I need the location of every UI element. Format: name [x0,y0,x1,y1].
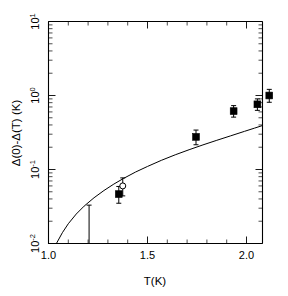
x-axis-title: T(K) [144,275,167,287]
marker-filled-square [230,108,237,115]
y-tick-exponent: -2 [28,234,37,241]
marker-filled-square [254,101,261,108]
y-tick-exponent: 0 [28,87,37,91]
marker-filled-square [193,133,200,140]
x-tick-label: 1.0 [41,249,56,261]
y-tick-exponent: -1 [28,160,37,167]
y-axis-title: Δ(0)-Δ(T) (K) [10,100,22,167]
plot-canvas: 1.01.52.0 10110010-110-2 T(K) Δ(0)-Δ(T) … [0,0,288,296]
marker-open-circle [120,183,126,189]
y-tick-exponent: 1 [28,13,37,17]
x-tick-label: 2.0 [239,249,254,261]
marker-filled-square [115,191,122,198]
marker-filled-square [266,92,273,99]
energy-gap-chart: 1.01.52.0 10110010-110-2 T(K) Δ(0)-Δ(T) … [0,0,288,296]
x-tick-label: 1.5 [140,249,155,261]
